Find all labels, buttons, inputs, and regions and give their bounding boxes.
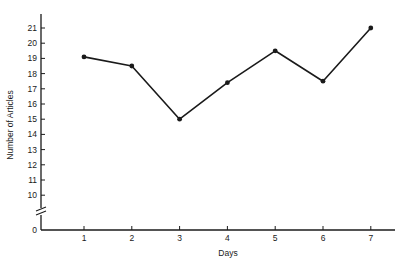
data-point bbox=[368, 26, 373, 31]
x-tick-label: 7 bbox=[368, 233, 373, 243]
y-tick-label: 18 bbox=[28, 69, 38, 79]
y-tick-label: 15 bbox=[28, 114, 38, 124]
x-tick-label: 3 bbox=[177, 233, 182, 243]
y-axis: 0101112131415161718192021 bbox=[28, 14, 46, 235]
x-tick-label: 1 bbox=[82, 233, 87, 243]
line-chart: 0101112131415161718192021 1234567 Days N… bbox=[0, 0, 405, 266]
data-point bbox=[82, 54, 87, 59]
x-tick-label: 4 bbox=[225, 233, 230, 243]
y-tick-label: 19 bbox=[28, 53, 38, 63]
y-tick-label: 17 bbox=[28, 84, 38, 94]
y-tick-label: 14 bbox=[28, 129, 38, 139]
x-axis: 1234567 bbox=[41, 226, 395, 243]
data-point bbox=[177, 117, 182, 122]
y-tick-label: 21 bbox=[28, 23, 38, 33]
y-tick-label: 11 bbox=[28, 175, 37, 185]
data-point bbox=[321, 79, 326, 84]
y-tick-label: 20 bbox=[28, 38, 38, 48]
y-tick-label: 12 bbox=[28, 160, 38, 170]
data-point bbox=[273, 48, 278, 53]
x-tick-label: 2 bbox=[129, 233, 134, 243]
data-point bbox=[225, 80, 230, 85]
data-point bbox=[129, 64, 134, 69]
x-tick-label: 5 bbox=[273, 233, 278, 243]
y-tick-label: 10 bbox=[28, 190, 38, 200]
y-tick-label: 0 bbox=[32, 225, 37, 235]
x-axis-title: Days bbox=[218, 248, 237, 258]
y-tick-label: 13 bbox=[28, 145, 38, 155]
y-tick-label: 16 bbox=[28, 99, 38, 109]
x-tick-label: 6 bbox=[321, 233, 326, 243]
y-axis-title: Number of Articles bbox=[5, 90, 15, 159]
data-line bbox=[84, 28, 371, 119]
